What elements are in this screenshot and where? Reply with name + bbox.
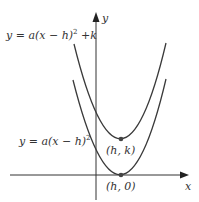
equation-base: y = a(x − h)2 [19,135,91,147]
shifted-parabola [74,43,166,139]
label-point-hk: (h, k) [106,145,135,156]
x-axis-arrow-icon [180,172,189,179]
label-point-h0: (h, 0) [106,181,136,192]
x-axis-label: x [185,181,191,192]
vertex-hk-point [119,137,124,142]
parabola-diagram: y = a(x − h)2 +k y = a(x − h)2 (h, k) (h… [0,0,199,202]
equation-shifted: y = a(x − h)2 +k [6,29,97,41]
vertex-h0-point [119,173,124,178]
y-axis-arrow-icon [93,12,100,22]
y-axis-label: y [102,13,108,24]
